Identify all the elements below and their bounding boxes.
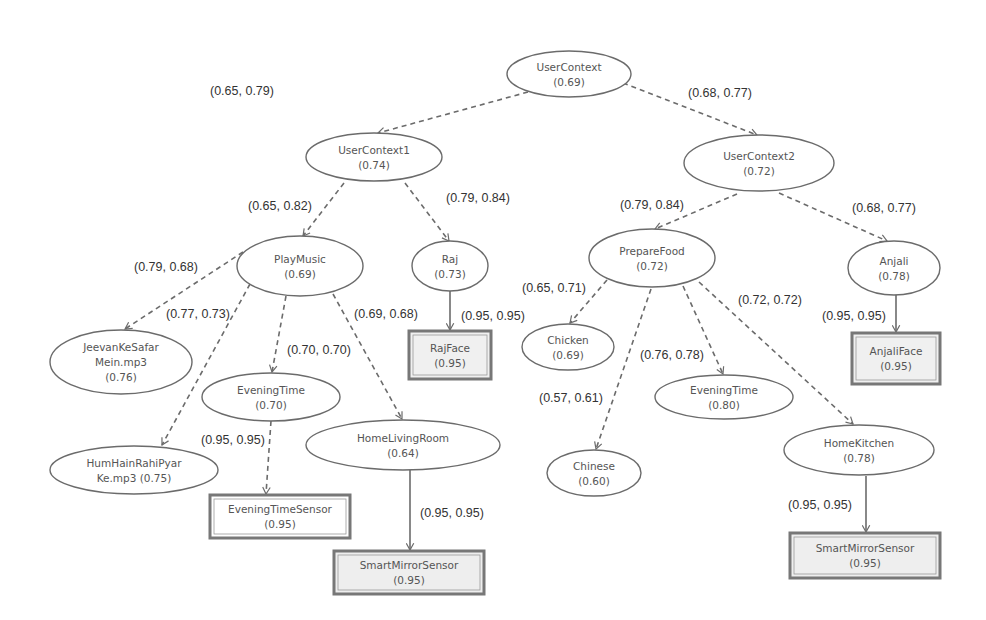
node-score: (0.95) xyxy=(264,518,296,530)
box-outer xyxy=(210,495,350,538)
edge-label: (0.95, 0.95) xyxy=(461,309,525,323)
node-score: (0.74) xyxy=(358,159,390,171)
node-score: (0.60) xyxy=(578,475,610,487)
ellipse-shape xyxy=(507,51,631,97)
node-name: AnjaliFace xyxy=(870,345,923,357)
node-name: JeevanKeSafar xyxy=(82,341,159,353)
edge-label: (0.65, 0.82) xyxy=(248,199,312,213)
node-preparefood: PrepareFood(0.72) xyxy=(589,229,715,287)
ellipse-shape xyxy=(547,450,641,496)
node-name: SmartMirrorSensor xyxy=(360,559,459,571)
ellipse-shape xyxy=(306,133,442,181)
edge-label: (0.65, 0.71) xyxy=(522,281,586,295)
edge-preparefood-to-chinese xyxy=(596,289,651,449)
edge-label: (0.77, 0.73) xyxy=(166,307,230,321)
edge-usercontext-to-usercontext1 xyxy=(378,92,528,133)
ellipse-shape xyxy=(848,241,940,295)
node-name2: Mein.mp3 xyxy=(95,356,147,368)
ellipse-shape xyxy=(684,135,834,191)
node-chicken: Chicken(0.69) xyxy=(522,324,614,370)
node-score: (0.78) xyxy=(878,270,910,282)
node-name: SmartMirrorSensor xyxy=(816,542,915,554)
ellipse-shape xyxy=(237,236,363,296)
ellipse-shape xyxy=(306,420,500,470)
node-jeevan: JeevanKeSafarMein.mp3(0.76) xyxy=(50,330,192,394)
ellipse-shape xyxy=(50,446,218,494)
edge-label: (0.95, 0.95) xyxy=(201,433,265,447)
edge-label: (0.79, 0.84) xyxy=(620,198,684,212)
node-score: (0.73) xyxy=(434,268,466,280)
node-name: Raj xyxy=(442,253,458,265)
node-name: Chinese xyxy=(573,460,615,472)
edge-playmusic-to-eveningtime1 xyxy=(272,296,286,372)
context-tree-diagram: UserContext(0.69)UserContext1(0.74)UserC… xyxy=(0,0,986,620)
node-score: (0.70) xyxy=(255,399,287,411)
edge-label: (0.57, 0.61) xyxy=(539,391,603,405)
edge-label: (0.95, 0.95) xyxy=(822,309,886,323)
edge-label: (0.68, 0.77) xyxy=(852,201,916,215)
box-outer xyxy=(852,333,940,384)
node-playmusic: PlayMusic(0.69) xyxy=(237,236,363,296)
node-name: EveningTime xyxy=(690,384,758,396)
edge-label: (0.68, 0.77) xyxy=(688,86,752,100)
node-anjaliface: AnjaliFace(0.95) xyxy=(852,333,940,384)
node-eveningtime2: EveningTime(0.80) xyxy=(655,375,793,419)
node-score: (0.64) xyxy=(387,447,419,459)
node-anjali: Anjali(0.78) xyxy=(848,241,940,295)
node-humhain: HumHainRahiPyarKe.mp3 (0.75) xyxy=(50,446,218,494)
ellipse-shape xyxy=(412,241,488,291)
node-score: (0.72) xyxy=(636,260,668,272)
node-name: HumHainRahiPyar xyxy=(86,457,182,469)
node-usercontext1: UserContext1(0.74) xyxy=(306,133,442,181)
edge-label: (0.65, 0.79) xyxy=(210,84,274,98)
ellipse-shape xyxy=(784,425,934,475)
ellipse-shape xyxy=(522,324,614,370)
node-score: (0.80) xyxy=(708,399,740,411)
node-rajface: RajFace(0.95) xyxy=(409,331,491,379)
node-eveningtime1: EveningTime(0.70) xyxy=(202,373,340,421)
edge-label: (0.76, 0.78) xyxy=(640,348,704,362)
node-name: Anjali xyxy=(879,255,908,267)
node-smartmirror2: SmartMirrorSensor(0.95) xyxy=(790,533,940,578)
edge-label: (0.79, 0.84) xyxy=(446,191,510,205)
node-score: (0.69) xyxy=(553,76,585,88)
node-name: RajFace xyxy=(430,342,470,354)
node-score: (0.78) xyxy=(843,452,875,464)
node-raj: Raj(0.73) xyxy=(412,241,488,291)
node-eveningtimesensor: EveningTimeSensor(0.95) xyxy=(210,495,350,538)
node-name: HomeKitchen xyxy=(824,437,894,449)
edge-label: (0.69, 0.68) xyxy=(354,307,418,321)
box-outer xyxy=(790,533,940,578)
node-name: EveningTime xyxy=(237,384,305,396)
node-name2: Ke.mp3 (0.75) xyxy=(97,472,172,484)
node-name: HomeLivingRoom xyxy=(357,432,449,444)
node-score: (0.69) xyxy=(552,349,584,361)
node-name: PrepareFood xyxy=(619,245,685,257)
node-score: (0.95) xyxy=(880,360,912,372)
box-outer xyxy=(334,551,484,594)
node-chinese: Chinese(0.60) xyxy=(547,450,641,496)
box-outer xyxy=(409,331,491,379)
node-homelivingroom: HomeLivingRoom(0.64) xyxy=(306,420,500,470)
node-score: (0.76) xyxy=(105,371,137,383)
node-name: UserContext1 xyxy=(338,144,410,156)
ellipse-shape xyxy=(655,375,793,419)
edge-label: (0.95, 0.95) xyxy=(420,506,484,520)
node-name: UserContext2 xyxy=(723,150,795,162)
node-score: (0.69) xyxy=(284,268,316,280)
node-homekitchen: HomeKitchen(0.78) xyxy=(784,425,934,475)
edge-label: (0.79, 0.68) xyxy=(134,260,198,274)
edge-label: (0.95, 0.95) xyxy=(788,498,852,512)
node-name: PlayMusic xyxy=(274,253,326,265)
node-score: (0.95) xyxy=(393,574,425,586)
ellipse-shape xyxy=(589,229,715,287)
node-usercontext2: UserContext2(0.72) xyxy=(684,135,834,191)
node-score: (0.72) xyxy=(743,165,775,177)
edge-eveningtime1-to-eveningtimesensor xyxy=(266,421,271,494)
node-score: (0.95) xyxy=(849,557,881,569)
node-name: EveningTimeSensor xyxy=(228,503,333,515)
node-name: Chicken xyxy=(547,334,589,346)
node-usercontext: UserContext(0.69) xyxy=(507,51,631,97)
node-score: (0.95) xyxy=(434,357,466,369)
edge-usercontext1-to-raj xyxy=(405,183,449,241)
